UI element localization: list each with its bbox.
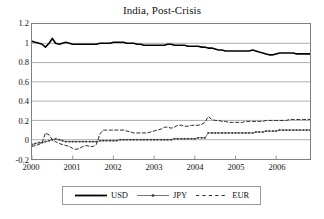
series-marker-jpy xyxy=(207,132,209,134)
series-marker-jpy xyxy=(214,132,216,134)
series-marker-jpy xyxy=(82,141,84,143)
series-marker-jpy xyxy=(153,139,155,141)
series-marker-jpy xyxy=(204,137,206,139)
x-tick-label: 2006 xyxy=(268,163,285,172)
y-tick-label: 1 xyxy=(1,39,29,48)
series-marker-jpy xyxy=(306,129,308,131)
series-marker-jpy xyxy=(126,139,128,141)
x-tick-label: 2004 xyxy=(186,163,203,172)
series-marker-jpy xyxy=(85,141,87,143)
series-marker-jpy xyxy=(303,129,305,131)
series-marker-jpy xyxy=(201,137,203,139)
series-marker-jpy xyxy=(69,141,71,143)
series-marker-jpy xyxy=(163,139,165,141)
series-marker-jpy xyxy=(258,131,260,133)
series-marker-jpy xyxy=(218,132,220,134)
series-marker-jpy xyxy=(272,130,274,132)
series-line-usd xyxy=(32,38,310,54)
series-marker-jpy xyxy=(38,142,40,144)
series-marker-jpy xyxy=(255,131,257,133)
series-marker-jpy xyxy=(136,139,138,141)
y-tick-label: 0.6 xyxy=(1,78,29,87)
series-marker-jpy xyxy=(160,139,162,141)
series-marker-jpy xyxy=(146,139,148,141)
y-tick-label: 1.2 xyxy=(1,19,29,28)
series-marker-jpy xyxy=(296,129,298,131)
series-marker-jpy xyxy=(279,129,281,131)
series-marker-jpy xyxy=(106,140,108,142)
series-marker-jpy xyxy=(143,139,145,141)
series-marker-jpy xyxy=(191,138,193,140)
series-marker-jpy xyxy=(123,139,125,141)
series-marker-jpy xyxy=(228,132,230,134)
series-marker-jpy xyxy=(292,129,294,131)
series-marker-jpy xyxy=(92,141,94,143)
series-marker-jpy xyxy=(187,138,189,140)
series-marker-jpy xyxy=(275,130,277,132)
series-marker-jpy xyxy=(102,140,104,142)
series-marker-jpy xyxy=(231,132,233,134)
series-marker-jpy xyxy=(157,139,159,141)
legend-entry-usd[interactable]: USD xyxy=(74,191,128,200)
data-series-layer xyxy=(32,24,310,159)
chart-legend: USDJPYEUR xyxy=(62,186,261,205)
series-marker-jpy xyxy=(299,129,301,131)
series-marker-jpy xyxy=(194,138,196,140)
series-marker-jpy xyxy=(309,129,310,131)
dashed-line-key xyxy=(195,191,229,200)
series-marker-jpy xyxy=(242,132,244,134)
series-marker-jpy xyxy=(224,132,226,134)
series-marker-jpy xyxy=(32,144,33,146)
series-marker-jpy xyxy=(221,132,223,134)
series-marker-jpy xyxy=(184,138,186,140)
legend-label: EUR xyxy=(232,191,249,200)
series-marker-jpy xyxy=(181,138,183,140)
plot-area xyxy=(31,23,311,160)
series-marker-jpy xyxy=(58,139,60,141)
series-marker-jpy xyxy=(245,132,247,134)
series-marker-jpy xyxy=(133,139,135,141)
series-marker-jpy xyxy=(75,141,77,143)
y-tick-label: 0.8 xyxy=(1,58,29,67)
series-marker-jpy xyxy=(150,139,152,141)
series-marker-jpy xyxy=(72,141,74,143)
chart-title: India, Post-Crisis xyxy=(0,4,324,16)
marker-line-key xyxy=(136,191,170,200)
series-marker-jpy xyxy=(282,129,284,131)
legend-label: JPY xyxy=(173,191,187,200)
series-marker-jpy xyxy=(248,132,250,134)
series-marker-jpy xyxy=(130,139,132,141)
series-marker-jpy xyxy=(286,129,288,131)
series-marker-jpy xyxy=(238,132,240,134)
y-tick-label: 0.4 xyxy=(1,97,29,106)
series-marker-jpy xyxy=(262,131,264,133)
series-marker-jpy xyxy=(116,140,118,142)
y-tick-label: 0 xyxy=(1,136,29,145)
series-marker-jpy xyxy=(65,141,67,143)
series-marker-jpy xyxy=(140,139,142,141)
series-marker-jpy xyxy=(119,139,121,141)
legend-entry-eur[interactable]: EUR xyxy=(195,191,249,200)
series-marker-jpy xyxy=(48,140,50,142)
y-tick-label: 0.2 xyxy=(1,117,29,126)
series-marker-jpy xyxy=(174,138,176,140)
x-tick-label: 2002 xyxy=(104,163,121,172)
series-line-jpy xyxy=(32,130,310,144)
series-marker-jpy xyxy=(197,137,199,139)
series-marker-jpy xyxy=(62,140,64,142)
series-marker-jpy xyxy=(177,138,179,140)
series-marker-jpy xyxy=(167,139,169,141)
x-axis: 2000200120022003200420052006 xyxy=(31,163,311,177)
series-marker-jpy xyxy=(79,141,81,143)
x-tick-label: 2003 xyxy=(145,163,162,172)
legend-entry-jpy[interactable]: JPY xyxy=(136,191,187,200)
series-marker-jpy xyxy=(289,129,291,131)
x-tick-label: 2005 xyxy=(227,163,244,172)
solid-thick-line-key xyxy=(74,191,108,200)
series-marker-jpy xyxy=(268,130,270,132)
x-tick-label: 2001 xyxy=(63,163,80,172)
legend-label: USD xyxy=(111,191,128,200)
chart-figure: India, Post-Crisis 1.210.80.60.40.20-0.2… xyxy=(0,0,324,219)
series-marker-jpy xyxy=(265,130,267,132)
series-marker-jpy xyxy=(45,141,47,143)
